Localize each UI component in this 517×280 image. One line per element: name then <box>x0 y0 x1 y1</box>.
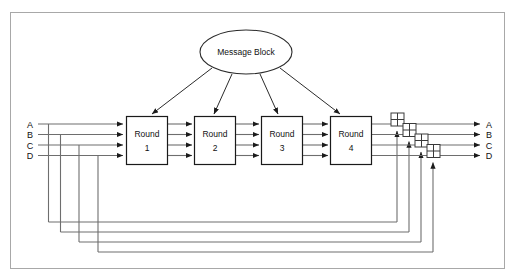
xor-adder-a[interactable] <box>391 113 404 126</box>
round-box-1-label-line1: Round <box>134 129 159 139</box>
output-label-c: C <box>486 141 493 151</box>
xor-adder-b[interactable] <box>403 124 416 137</box>
output-label-d: D <box>486 151 493 161</box>
hash-round-diagram: Message Block <box>0 0 517 280</box>
input-label-a: A <box>27 120 33 130</box>
round-box-4-label-line2: 4 <box>349 143 354 153</box>
message-block-node: Message Block <box>200 30 292 74</box>
round-box-3-label-line2: 3 <box>280 143 285 153</box>
round-box-2-label-line2: 2 <box>213 143 218 153</box>
round-box-4[interactable]: Round 4 <box>331 117 372 165</box>
xor-adder-c[interactable] <box>415 134 428 147</box>
message-block-label: Message Block <box>217 47 275 57</box>
input-label-c: C <box>27 141 34 151</box>
xor-adder-d[interactable] <box>427 145 440 158</box>
round-box-3-label-line1: Round <box>269 129 294 139</box>
round-box-4-label-line1: Round <box>338 129 363 139</box>
round-box-1-label-line2: 1 <box>145 143 150 153</box>
output-label-b: B <box>486 130 492 140</box>
round-box-1[interactable]: Round 1 <box>127 117 168 165</box>
diagram-canvas: Message Block <box>0 0 517 280</box>
round-box-2-label-line1: Round <box>202 129 227 139</box>
input-label-d: D <box>27 151 34 161</box>
round-box-2[interactable]: Round 2 <box>195 117 236 165</box>
output-label-a: A <box>486 120 492 130</box>
input-label-b: B <box>27 130 33 140</box>
round-box-3[interactable]: Round 3 <box>262 117 303 165</box>
